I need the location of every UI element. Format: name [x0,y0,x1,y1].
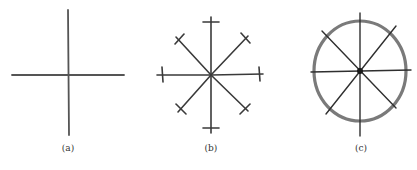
panel-b-star [157,17,263,133]
panel-b-label: (b) [205,143,218,153]
panel-c-wheel [311,13,411,136]
hub [357,68,363,74]
vertical-line [68,10,69,135]
panel-a-cross [12,10,124,135]
tick-right [259,67,260,81]
panel-c-label: (c) [355,143,367,153]
tick-top-left [175,34,184,44]
tick-left [162,67,163,82]
panel-a-label: (a) [62,143,74,153]
wheel-spokes [311,13,411,136]
